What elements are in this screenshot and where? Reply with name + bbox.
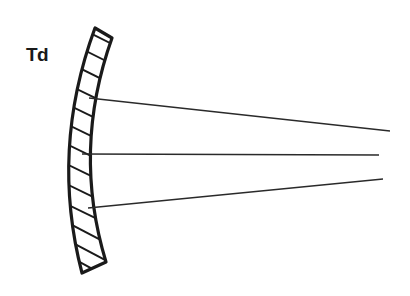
center-ray <box>82 154 379 155</box>
light-rays <box>82 98 390 208</box>
concave-mirror <box>50 18 120 284</box>
lower-ray <box>88 179 383 208</box>
mirror-label: Td <box>26 44 48 66</box>
upper-ray <box>89 98 390 131</box>
mirror-outline <box>69 28 112 273</box>
diagram-canvas: Td <box>0 0 410 296</box>
mirror-diagram <box>0 0 410 296</box>
